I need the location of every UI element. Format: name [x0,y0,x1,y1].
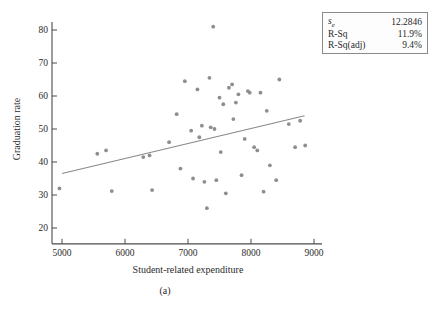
y-axis-title: Graduation rate [11,97,22,160]
data-point [208,76,212,80]
figure-caption: (a) [0,285,330,296]
x-tick-label: 5000 [53,248,72,258]
data-point [167,140,171,144]
data-point [148,154,152,158]
statistics-table: se12.2846R-Sq11.9%R-Sq(adj)9.4% [323,15,427,51]
x-tick-label: 9000 [305,248,324,258]
data-point [221,102,225,106]
data-point [303,144,307,148]
stats-row-label: R-Sq(adj) [323,40,379,51]
stats-row-label: R-Sq [323,29,379,40]
y-tick-label: 80 [39,25,49,35]
data-point [205,206,209,210]
axes [52,22,322,244]
data-point [227,86,231,90]
data-point [175,112,179,116]
data-point [214,178,218,182]
data-point [293,145,297,149]
data-point [234,101,238,105]
y-tick-label: 20 [39,223,49,233]
axis-tick-labels: 2030405060708050006000700080009000 [39,25,324,257]
stats-row-label: se [323,15,379,29]
x-tick-label: 7000 [179,248,198,258]
data-point [141,155,145,159]
stats-row: se12.2846 [323,15,427,29]
x-tick-label: 6000 [116,248,135,258]
data-point [259,91,263,95]
figure-container: 2030405060708050006000700080009000 Stude… [0,0,438,314]
data-point [197,135,201,139]
data-point [231,117,235,121]
data-point [104,149,108,153]
y-tick-label: 70 [39,58,49,68]
data-point [219,150,223,154]
data-point [248,91,252,95]
x-axis-title: Student-related expenditure [133,264,244,275]
data-point [255,149,259,153]
data-point [243,137,247,141]
data-point [213,127,217,131]
data-point [230,83,234,87]
stats-row: R-Sq11.9% [323,29,427,40]
stats-row-value: 11.9% [379,29,427,40]
data-point [237,92,241,96]
data-point [189,129,193,133]
y-tick-label: 50 [39,124,49,134]
statistics-legend-box: se12.2846R-Sq11.9%R-Sq(adj)9.4% [322,12,428,54]
data-point [202,180,206,184]
data-point [298,119,302,123]
data-point [58,187,62,191]
y-tick-label: 40 [39,157,49,167]
data-point [211,25,215,29]
data-point [262,190,266,194]
data-point [110,189,114,193]
data-point [218,96,222,100]
data-point [252,145,256,149]
data-point [277,78,281,82]
y-tick-label: 30 [39,190,49,200]
data-point [179,167,183,171]
stats-row-value: 9.4% [379,40,427,51]
data-point [196,88,200,92]
axis-ticks [52,30,314,244]
x-tick-label: 8000 [242,248,261,258]
data-point [268,163,272,167]
stats-row: R-Sq(adj)9.4% [323,40,427,51]
data-point [265,109,269,113]
data-point [209,125,213,129]
data-point [183,79,187,83]
stats-row-value: 12.2846 [379,15,427,29]
data-point [274,178,278,182]
data-point [240,173,244,177]
data-point [95,152,99,156]
data-point [287,122,291,126]
data-point [150,188,154,192]
y-tick-label: 60 [39,91,49,101]
data-points [58,25,307,210]
data-point [224,191,228,195]
data-point [191,177,195,181]
data-point [200,124,204,128]
